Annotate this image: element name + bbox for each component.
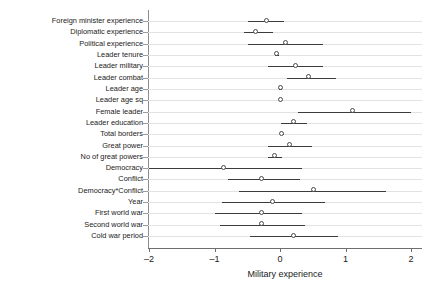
y-axis-label: Leader age sq [0, 96, 143, 104]
estimate-row [148, 95, 422, 106]
estimate-row [148, 197, 422, 208]
x-axis-tick [346, 248, 347, 252]
x-axis-tick [411, 248, 412, 252]
y-axis-label: Leader age [0, 85, 143, 93]
point-estimate-marker [259, 221, 264, 226]
confidence-interval [298, 112, 411, 113]
x-axis-tick-label: 2 [391, 254, 422, 264]
y-axis-label: No of great powers [0, 153, 143, 161]
estimate-row [148, 163, 422, 174]
point-estimate-marker [306, 74, 311, 79]
estimate-row [148, 16, 422, 27]
x-axis-line [148, 248, 422, 249]
estimate-row [148, 39, 422, 50]
point-estimate-marker [272, 153, 277, 158]
y-axis-label: Cold war period [0, 232, 143, 240]
confidence-interval [287, 78, 335, 79]
x-axis-tick [280, 248, 281, 252]
estimate-row [148, 174, 422, 185]
point-estimate-marker [259, 210, 264, 215]
point-estimate-marker [270, 199, 275, 204]
x-axis-tick-label: –1 [195, 254, 235, 264]
y-axis-label: Diplomatic experience [0, 28, 143, 36]
y-axis-label: Second world war [0, 221, 143, 229]
y-axis-label: Foreign minister experience [0, 17, 143, 25]
point-estimate-marker [293, 63, 298, 68]
estimate-row [148, 186, 422, 197]
y-axis-label: Conflict [0, 175, 143, 183]
estimate-row [148, 231, 422, 242]
y-axis-label: Great power [0, 142, 143, 150]
estimate-row [148, 73, 422, 84]
coefficient-plot: Foreign minister experienceDiplomatic ex… [0, 0, 422, 293]
estimate-row [148, 118, 422, 129]
estimate-row [148, 27, 422, 38]
x-axis-tick-label: –2 [129, 254, 169, 264]
estimate-row [148, 84, 422, 95]
y-axis-label: Year [0, 198, 143, 206]
point-estimate-marker [221, 165, 226, 170]
plot-panel [148, 10, 422, 248]
y-axis-label: Political experience [0, 40, 143, 48]
point-estimate-marker [283, 40, 288, 45]
point-estimate-marker [264, 18, 269, 23]
estimate-row [148, 220, 422, 231]
y-axis-label: Total borders [0, 130, 143, 138]
y-axis-label: Democracy*Conflict [0, 187, 143, 195]
estimate-row [148, 61, 422, 72]
estimate-row [148, 152, 422, 163]
y-axis-label: Leader military [0, 62, 143, 70]
confidence-interval [228, 179, 301, 180]
y-axis-label: Leader combat [0, 74, 143, 82]
estimate-row [148, 208, 422, 219]
estimate-row [148, 129, 422, 140]
point-estimate-marker [278, 97, 283, 102]
y-axis-label: First world war [0, 209, 143, 217]
y-axis-label: Leader education [0, 119, 143, 127]
x-axis-tick-label: 1 [326, 254, 366, 264]
estimate-row [148, 50, 422, 61]
y-axis-label: Leader tenure [0, 51, 143, 59]
x-axis-tick-label: 0 [260, 254, 300, 264]
confidence-interval [244, 32, 273, 33]
y-axis-label: Democracy [0, 164, 143, 172]
estimate-row [148, 141, 422, 152]
x-axis-title: Military experience [148, 269, 422, 279]
y-axis-label: Female leader [0, 108, 143, 116]
point-estimate-marker [278, 85, 283, 90]
point-estimate-marker [350, 108, 355, 113]
estimate-row [148, 107, 422, 118]
x-axis-tick [215, 248, 216, 252]
point-estimate-marker [291, 233, 296, 238]
x-axis-tick [149, 248, 150, 252]
